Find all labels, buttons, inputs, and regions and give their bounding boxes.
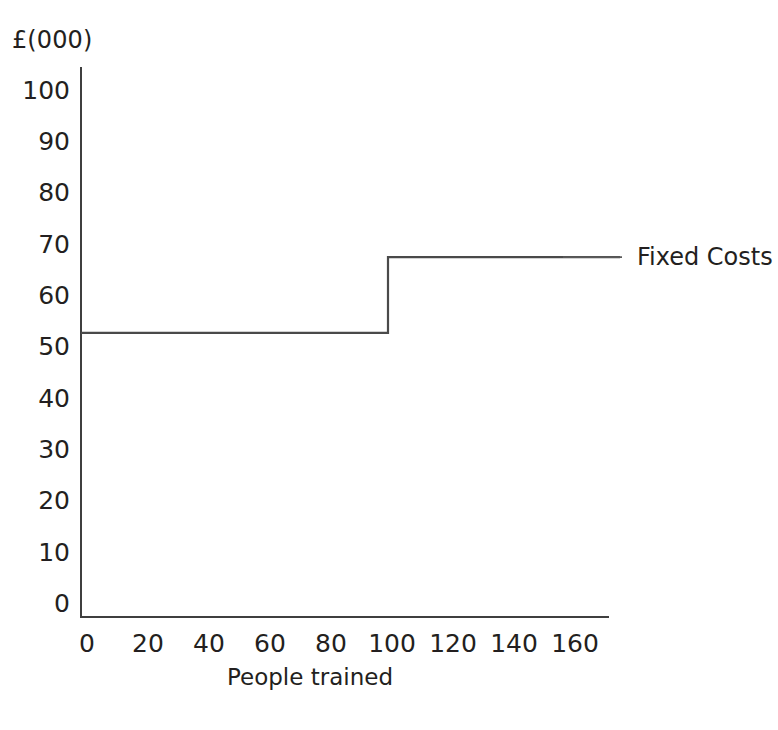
series-line-fixed-costs [81, 257, 620, 333]
fixed-costs-step-chart: £(000) 100 90 80 70 60 50 40 30 20 10 0 … [0, 0, 778, 730]
